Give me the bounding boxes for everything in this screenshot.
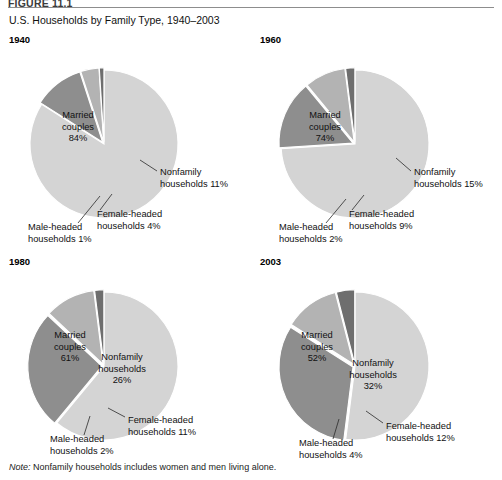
pie-chart-1980: Marriedcouples61%Nonfamilyhouseholds26%F… xyxy=(0,256,251,471)
pie-chart-panel-1960: 1960 Marriedcouples74%Nonfamilyhousehold… xyxy=(251,34,502,249)
callout-label-nonfamily: Nonfamilyhouseholds 15% xyxy=(414,167,483,189)
note-prefix: Note: xyxy=(9,462,31,472)
callout-label-female-headed: Female-headedhouseholds 11% xyxy=(128,415,196,437)
callout-label-female-headed: Female-headedhouseholds 9% xyxy=(349,209,414,231)
pie-chart-1940: Marriedcouples84%Nonfamilyhouseholds 11%… xyxy=(0,34,251,249)
callout-label-male-headed: Male-headedhouseholds 4% xyxy=(299,438,363,460)
pie-chart-panel-1940: 1940 Marriedcouples84%Nonfamilyhousehold… xyxy=(0,34,251,249)
note-text: Nonfamily households includes women and … xyxy=(31,462,277,472)
callout-label-male-headed: Male-headedhouseholds 2% xyxy=(279,222,343,244)
pie-chart-2003: Marriedcouples52%Nonfamilyhouseholds32%F… xyxy=(251,256,502,471)
header-rule xyxy=(8,7,494,8)
pie-chart-panel-2003: 2003 Marriedcouples52%Nonfamilyhousehold… xyxy=(251,256,502,471)
callout-label-female-headed: Female-headedhouseholds 4% xyxy=(97,209,162,231)
callout-label-female-headed: Female-headedhouseholds 12% xyxy=(386,421,455,443)
figure-title: U.S. Households by Family Type, 1940–200… xyxy=(9,14,220,26)
callout-label-male-headed: Male-headedhouseholds 1% xyxy=(28,222,92,244)
callout-label-male-headed: Male-headedhouseholds 2% xyxy=(50,434,114,456)
pie-chart-panel-1980: 1980 Marriedcouples61%Nonfamilyhousehold… xyxy=(0,256,251,471)
callout-label-nonfamily: Nonfamilyhouseholds 11% xyxy=(160,167,228,189)
pie-chart-1960: Marriedcouples74%Nonfamilyhouseholds 15%… xyxy=(251,34,502,249)
figure-note: Note: Nonfamily households includes wome… xyxy=(9,462,276,472)
